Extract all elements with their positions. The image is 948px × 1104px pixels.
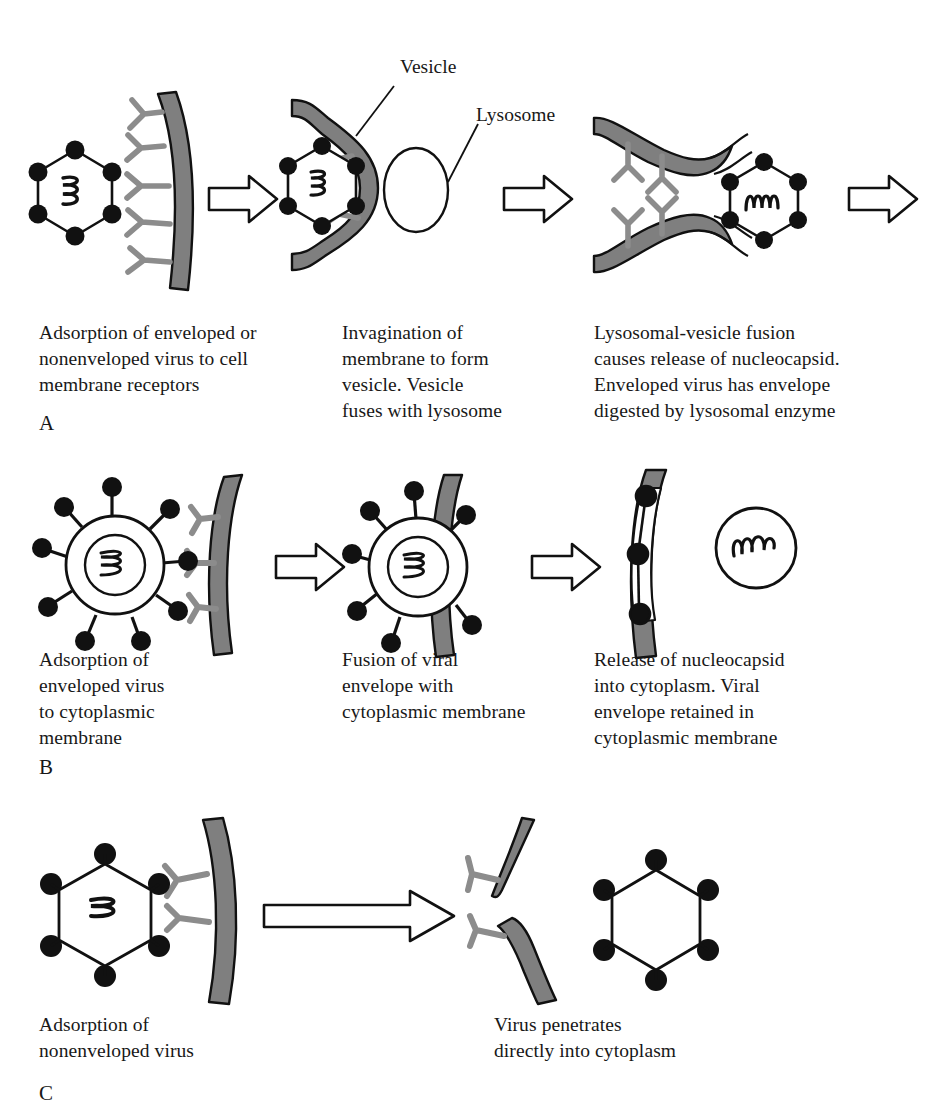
panel-b-step-3-caption: Release of nucleocapsid into cytoplasm. …: [594, 647, 914, 751]
panel-a-step-3-art: [586, 100, 836, 290]
panel-a-arrow-1: [205, 170, 283, 228]
receptor-icons: [468, 858, 504, 946]
membrane-curve: [203, 818, 236, 1004]
virus-hexagonal-capsid: [40, 843, 170, 987]
membrane-with-retained-envelope: [628, 470, 666, 658]
panel-a-step-1-caption: Adsorption of enveloped or nonenveloped …: [39, 320, 319, 398]
panel-c-step-2-caption: Virus penetrates directly into cytoplasm: [494, 1012, 814, 1064]
callout-label-vesicle: Vesicle: [400, 56, 456, 78]
receptor-icons: [165, 866, 209, 930]
panel-c-step-2-art: [468, 818, 798, 1008]
virus-enveloped-spiked: [32, 477, 198, 651]
panel-a-step-2-art: [282, 78, 522, 293]
receptor-icons: [127, 100, 170, 272]
membrane-fragment-upper: [492, 818, 534, 897]
panel-letter-b: B: [39, 756, 53, 778]
ruptured-vesicle-upper: [594, 118, 752, 175]
panel-b-arrow-1: [272, 538, 350, 596]
panel-b-step-3-art: [620, 470, 850, 660]
panel-a: Vesicle Lysosome: [0, 0, 948, 450]
panel-b: Adsorption of enveloped virus to cytopla…: [0, 450, 948, 800]
panel-a-arrow-2: [500, 170, 578, 228]
lysosome-organelle: [384, 148, 448, 232]
callout-leader-vesicle: [356, 86, 394, 136]
virus-hexagonal-capsid-penetrated: [593, 849, 719, 991]
virus-hexagonal-capsid: [29, 141, 122, 246]
panel-letter-c: C: [39, 1082, 53, 1104]
panel-letter-a: A: [39, 412, 54, 434]
panel-c: Adsorption of nonenveloped virus Virus p…: [0, 800, 948, 1095]
virus-hexagonal-capsid-released: [721, 153, 807, 249]
virus-enveloped-fusing: [342, 481, 482, 653]
callout-leader-lysosome: [448, 124, 478, 182]
membrane-fragment-lower: [498, 918, 556, 1004]
panel-b-step-1-caption: Adsorption of enveloped virus to cytopla…: [39, 647, 289, 751]
free-nucleocapsid: [716, 508, 796, 588]
panel-b-arrow-2: [528, 538, 606, 596]
panel-b-step-2-art: [352, 475, 552, 660]
panel-a-arrow-3: [845, 170, 923, 228]
panel-c-step-1-caption: Adsorption of nonenveloped virus: [39, 1012, 299, 1064]
panel-a-step-2-caption: Invagination of membrane to form vesicle…: [342, 320, 592, 424]
panel-b-step-1-art: [28, 475, 258, 660]
panel-c-step-1-art: [35, 818, 265, 1008]
panel-b-step-2-caption: Fusion of viral envelope with cytoplasmi…: [342, 647, 602, 725]
panel-a-step-3-caption: Lysosomal-vesicle fusion causes release …: [594, 320, 934, 424]
panel-c-arrow-1: [260, 885, 460, 947]
